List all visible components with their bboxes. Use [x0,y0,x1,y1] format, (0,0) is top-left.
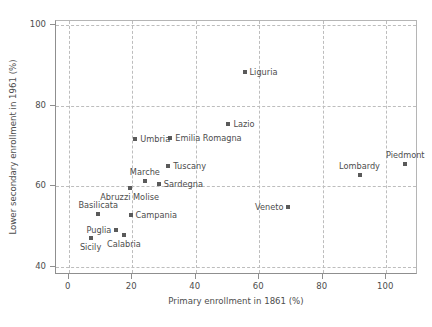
gridline-vertical [386,21,387,273]
data-point-label: Sicily [80,243,101,252]
x-axis-tick-label: 40 [189,281,200,291]
data-point-label: Marche [130,168,160,177]
data-point-label: Sardegna [164,179,203,188]
data-point-marker [166,164,170,168]
data-point-marker [128,186,132,190]
data-point-marker [226,122,230,126]
x-axis-tick-label: 0 [65,281,70,291]
data-point-marker [143,179,147,183]
x-axis-tick [195,274,196,279]
data-point-label: Calabria [107,240,141,249]
y-axis-tick [50,24,55,25]
x-axis-tick [385,274,386,279]
gridline-vertical [259,21,260,273]
scatter-chart-figure: Lower secondary enrollment in 1961 (%) P… [0,0,432,327]
y-axis-tick-label: 100 [30,19,46,29]
data-point-label: Puglia [87,226,112,235]
data-point-marker [157,182,161,186]
data-point-marker [286,205,290,209]
data-point-marker [243,70,247,74]
data-point-marker [89,236,93,240]
data-point-label: Lazio [233,119,254,128]
y-axis-tick-label: 40 [35,261,46,271]
data-point-label: Umbria [140,135,170,144]
x-axis-tick [131,274,132,279]
x-axis-tick-label: 100 [377,281,393,291]
y-axis-tick [50,266,55,267]
data-point-marker [358,173,362,177]
data-point-label: Basilicata [78,201,117,210]
gridline-horizontal [56,186,416,187]
data-point-label: Piedmont [386,151,425,160]
data-point-marker [403,162,407,166]
data-point-marker [133,137,137,141]
data-point-label: Campania [136,210,177,219]
data-point-label: Tuscany [173,161,206,170]
plot-area [55,20,417,274]
y-axis-title: Lower secondary enrollment in 1961 (%) [8,20,22,274]
data-point-label: Emilia Romagna [175,134,241,143]
gridline-horizontal [56,267,416,268]
data-point-marker [96,212,100,216]
y-axis-tick-label: 80 [35,100,46,110]
x-axis-tick [68,274,69,279]
x-axis-tick [322,274,323,279]
y-axis-tick [50,185,55,186]
gridline-horizontal [56,25,416,26]
data-point-marker [129,213,133,217]
gridline-vertical [69,21,70,273]
gridline-vertical [323,21,324,273]
x-axis-tick [258,274,259,279]
x-axis-title: Primary enrollment in 1861 (%) [55,296,417,306]
data-point-marker [122,233,126,237]
x-axis-tick-label: 80 [316,281,327,291]
gridline-vertical [196,21,197,273]
x-axis-tick-label: 60 [253,281,264,291]
x-axis-tick-label: 20 [126,281,137,291]
data-point-label: Lombardy [339,162,380,171]
data-point-marker [114,228,118,232]
data-point-label: Liguria [250,67,278,76]
gridline-vertical [132,21,133,273]
y-axis-tick-label: 60 [35,180,46,190]
y-axis-tick [50,105,55,106]
gridline-horizontal [56,106,416,107]
data-point-label: Veneto [255,203,283,212]
